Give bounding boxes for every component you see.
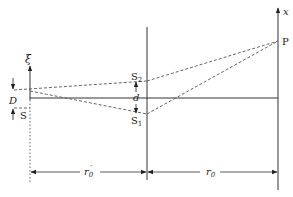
- x-label: x: [283, 6, 289, 17]
- interference-diagram: ξ x P D S S2 S1 d r0′ r0: [0, 0, 293, 197]
- P-label: P: [282, 36, 289, 47]
- ray-source-s2: [14, 81, 147, 90]
- xi-label: ξ: [25, 53, 32, 66]
- S1-label: S1: [131, 115, 142, 128]
- S-label: S: [20, 110, 27, 121]
- ray-s2-p: [147, 41, 278, 81]
- ray-s1-p: [147, 41, 278, 114]
- D-label: D: [8, 95, 17, 106]
- r0-label: r0: [206, 166, 216, 179]
- r0prime-label: r0′: [84, 163, 94, 179]
- d-label: d: [133, 92, 139, 103]
- ray-source-s1: [30, 91, 147, 114]
